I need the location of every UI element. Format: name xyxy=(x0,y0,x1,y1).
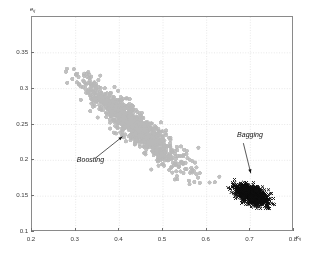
annotation-arrows xyxy=(32,17,293,231)
x-tick-label: 0.7 xyxy=(236,235,262,242)
kappa-error-scatter-figure: 0.10.150.20.250.30.35 0.20.30.40.50.60.7… xyxy=(0,0,317,257)
x-tick-label: 0.5 xyxy=(149,235,175,242)
annotation-label-boosting: Boosting xyxy=(77,156,104,163)
x-tick-label: 0.6 xyxy=(193,235,219,242)
x-tick-mark xyxy=(249,228,250,231)
x-tick-mark xyxy=(206,228,207,231)
y-tick-label: 0.2 xyxy=(2,155,28,162)
x-tick-label: 0.3 xyxy=(62,235,88,242)
y-tick-mark xyxy=(31,159,34,160)
y-tick-label: 0.25 xyxy=(2,120,28,127)
y-tick-label: 0.15 xyxy=(2,191,28,198)
y-tick-mark xyxy=(31,52,34,53)
y-axis-title: eij xyxy=(30,6,35,13)
x-tick-label: 0.4 xyxy=(105,235,131,242)
x-tick-label: 0.8 xyxy=(280,235,306,242)
x-tick-mark xyxy=(75,228,76,231)
x-axis-title: κij xyxy=(296,234,301,241)
y-tick-mark xyxy=(31,88,34,89)
x-tick-mark xyxy=(293,228,294,231)
y-tick-mark xyxy=(31,124,34,125)
plot-area xyxy=(31,16,293,231)
y-tick-label: 0.35 xyxy=(2,48,28,55)
y-tick-label: 0.1 xyxy=(2,227,28,234)
x-tick-label: 0.2 xyxy=(18,235,44,242)
y-tick-label: 0.3 xyxy=(2,84,28,91)
x-tick-mark xyxy=(162,228,163,231)
annotation-label-bagging: Bagging xyxy=(237,131,263,138)
y-tick-mark xyxy=(31,195,34,196)
x-tick-mark xyxy=(118,228,119,231)
y-tick-mark xyxy=(31,231,34,232)
x-tick-mark xyxy=(31,228,32,231)
